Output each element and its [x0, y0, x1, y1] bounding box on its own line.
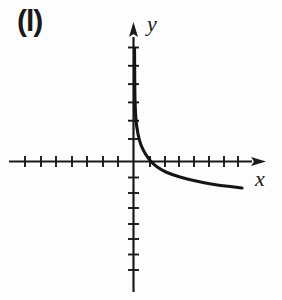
- y-axis-arrowhead-icon: [129, 22, 138, 37]
- figure: (l) y x: [0, 0, 282, 300]
- x-axis-arrowhead-icon: [251, 157, 266, 166]
- coordinate-plane: y x: [0, 0, 282, 300]
- x-axis-label: x: [254, 166, 265, 191]
- y-axis-label: y: [145, 11, 157, 36]
- axes: [9, 22, 266, 292]
